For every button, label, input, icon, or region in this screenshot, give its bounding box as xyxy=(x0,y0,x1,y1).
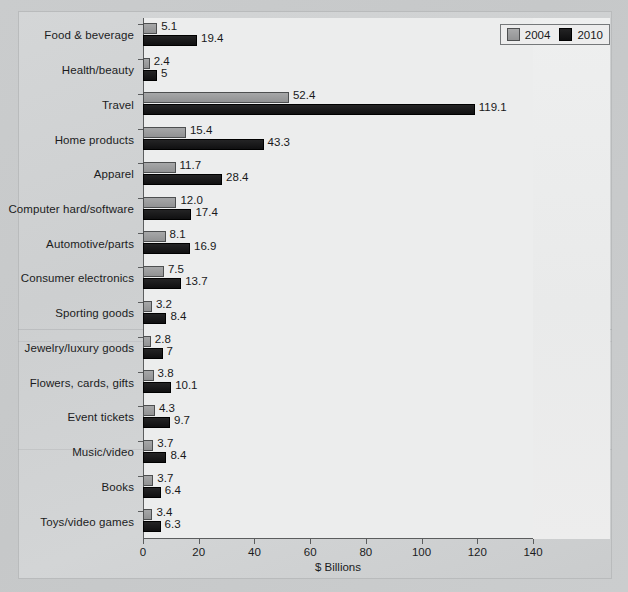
bar-2010 xyxy=(143,35,197,46)
bar-value-label: 6.4 xyxy=(165,485,181,496)
category-label: Sporting goods xyxy=(55,307,134,319)
bar-2010 xyxy=(143,313,166,324)
category-label: Toys/video games xyxy=(40,516,134,528)
bar-value-label: 3.2 xyxy=(156,299,172,310)
bar-2004 xyxy=(143,197,176,208)
bar-value-label: 5.1 xyxy=(161,21,177,32)
x-axis-tick xyxy=(143,539,144,544)
x-axis-tick-label: 100 xyxy=(412,546,431,558)
bar-value-label: 28.4 xyxy=(226,172,248,183)
bar-value-label: 3.7 xyxy=(157,473,173,484)
x-axis-tick-label: 40 xyxy=(248,546,261,558)
table-row: Travel52.4119.1 xyxy=(0,87,628,122)
table-row: Computer hard/software12.017.4 xyxy=(0,192,628,227)
bar-2010 xyxy=(143,70,157,81)
bar-value-label: 2.8 xyxy=(155,334,171,345)
bar-value-label: 17.4 xyxy=(195,207,217,218)
bar-value-label: 3.7 xyxy=(157,438,173,449)
x-axis-tick xyxy=(310,539,311,544)
bar-2010 xyxy=(143,243,190,254)
x-axis-tick-label: 20 xyxy=(192,546,205,558)
bar-2010 xyxy=(143,104,475,115)
x-axis-tick xyxy=(422,539,423,544)
bar-value-label: 7 xyxy=(167,346,173,357)
bar-value-label: 4.3 xyxy=(159,403,175,414)
bar-value-label: 12.0 xyxy=(180,195,202,206)
bar-value-label: 3.8 xyxy=(158,368,174,379)
bar-2010 xyxy=(143,139,264,150)
bar-2010 xyxy=(143,278,181,289)
bar-2004 xyxy=(143,301,152,312)
table-row: Event tickets4.39.7 xyxy=(0,400,628,435)
bar-value-label: 13.7 xyxy=(185,276,207,287)
bar-value-label: 3.4 xyxy=(156,507,172,518)
x-axis-tick-label: 140 xyxy=(523,546,542,558)
x-axis-tick-label: 120 xyxy=(468,546,487,558)
bar-value-label: 19.4 xyxy=(201,33,223,44)
chart-page: 2004 2010 Food & beverage5.119.4Health/b… xyxy=(0,0,628,592)
bar-2004 xyxy=(143,58,150,69)
bar-value-label: 15.4 xyxy=(190,125,212,136)
x-axis-tick xyxy=(199,539,200,544)
bar-2004 xyxy=(143,162,176,173)
x-axis: 020406080100120140 xyxy=(143,539,533,579)
table-row: Food & beverage5.119.4 xyxy=(0,18,628,53)
category-label: Food & beverage xyxy=(44,29,134,41)
table-row: Music/video3.78.4 xyxy=(0,435,628,470)
x-axis-tick xyxy=(533,539,534,544)
bar-value-label: 119.1 xyxy=(479,102,507,113)
category-label: Home products xyxy=(55,134,134,146)
x-axis-tick-label: 0 xyxy=(140,546,146,558)
category-label: Music/video xyxy=(72,446,134,458)
bar-rows: Food & beverage5.119.4Health/beauty2.45T… xyxy=(0,18,628,539)
bar-value-label: 7.5 xyxy=(168,264,184,275)
bar-value-label: 9.7 xyxy=(174,415,190,426)
bar-value-label: 52.4 xyxy=(293,90,315,101)
table-row: Health/beauty2.45 xyxy=(0,53,628,88)
bar-2004 xyxy=(143,127,186,138)
category-label: Health/beauty xyxy=(62,64,134,76)
category-label: Apparel xyxy=(94,168,134,180)
category-label: Consumer electronics xyxy=(21,272,134,284)
category-label: Travel xyxy=(102,99,134,111)
bar-value-label: 8.1 xyxy=(170,229,186,240)
bar-2004 xyxy=(143,231,166,242)
table-row: Automotive/parts8.116.9 xyxy=(0,226,628,261)
bar-2004 xyxy=(143,475,153,486)
bar-2004 xyxy=(143,405,155,416)
bar-value-label: 11.7 xyxy=(180,160,202,171)
table-row: Sporting goods3.28.4 xyxy=(0,296,628,331)
category-label: Books xyxy=(102,481,134,493)
bar-2010 xyxy=(143,209,191,220)
x-axis-tick xyxy=(254,539,255,544)
bar-2004 xyxy=(143,370,154,381)
bar-value-label: 10.1 xyxy=(175,380,197,391)
x-axis-tick xyxy=(366,539,367,544)
bar-2004 xyxy=(143,92,289,103)
bar-2010 xyxy=(143,348,163,359)
table-row: Consumer electronics7.513.7 xyxy=(0,261,628,296)
category-label: Computer hard/software xyxy=(8,203,134,215)
x-axis-tick-label: 80 xyxy=(359,546,372,558)
category-label: Event tickets xyxy=(68,411,135,423)
table-row: Flowers, cards, gifts3.810.1 xyxy=(0,365,628,400)
table-row: Books3.76.4 xyxy=(0,470,628,505)
bar-2010 xyxy=(143,521,161,532)
bar-value-label: 2.4 xyxy=(154,56,170,67)
bar-2004 xyxy=(143,23,157,34)
bar-value-label: 8.4 xyxy=(170,450,186,461)
category-label: Jewelry/luxury goods xyxy=(25,342,134,354)
category-label: Automotive/parts xyxy=(46,238,134,250)
bar-2004 xyxy=(143,440,153,451)
bar-2004 xyxy=(143,509,152,520)
bar-value-label: 8.4 xyxy=(170,311,186,322)
x-axis-tick xyxy=(477,539,478,544)
x-axis-tick-label: 60 xyxy=(304,546,317,558)
bar-value-label: 6.3 xyxy=(165,519,181,530)
bar-2004 xyxy=(143,336,151,347)
table-row: Jewelry/luxury goods2.87 xyxy=(0,331,628,366)
bar-2010 xyxy=(143,417,170,428)
bar-value-label: 43.3 xyxy=(268,137,290,148)
category-label: Flowers, cards, gifts xyxy=(30,377,134,389)
bar-2010 xyxy=(143,487,161,498)
